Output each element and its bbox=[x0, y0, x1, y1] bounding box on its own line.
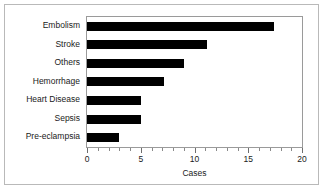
x-axis-tick-labels: 05101520 bbox=[86, 154, 303, 166]
x-tick-minor bbox=[109, 148, 110, 151]
x-tick-major bbox=[141, 148, 142, 153]
x-tick-minor bbox=[130, 148, 131, 151]
x-tick-major bbox=[87, 148, 88, 153]
x-tick-minor bbox=[227, 148, 228, 151]
category-label: Sepsis bbox=[54, 109, 80, 128]
bar-row bbox=[87, 91, 141, 110]
bar-row bbox=[87, 54, 184, 73]
x-tick-minor bbox=[270, 148, 271, 151]
bar-row bbox=[87, 36, 207, 55]
x-tick-label: 0 bbox=[85, 154, 90, 164]
x-tick-major bbox=[302, 148, 303, 153]
bar-row bbox=[87, 128, 119, 147]
x-tick-minor bbox=[238, 148, 239, 151]
x-tick-label: 5 bbox=[138, 154, 143, 164]
x-axis-title: Cases bbox=[86, 168, 303, 178]
x-tick-minor bbox=[205, 148, 206, 151]
bar-row bbox=[87, 110, 141, 129]
bar bbox=[87, 40, 207, 49]
plot-area bbox=[86, 16, 303, 148]
bars-layer bbox=[87, 17, 302, 147]
x-tick-minor bbox=[281, 148, 282, 151]
bar bbox=[87, 133, 119, 142]
x-tick-label: 20 bbox=[297, 154, 306, 164]
x-tick-minor bbox=[119, 148, 120, 151]
category-label: Stroke bbox=[55, 35, 80, 54]
x-tick-minor bbox=[152, 148, 153, 151]
bar bbox=[87, 115, 141, 124]
category-label: Pre-eclampsia bbox=[26, 127, 80, 146]
bar bbox=[87, 96, 141, 105]
x-tick-minor bbox=[291, 148, 292, 151]
x-tick-label: 10 bbox=[190, 154, 199, 164]
category-label: Heart Disease bbox=[26, 90, 80, 109]
x-tick-minor bbox=[259, 148, 260, 151]
bar bbox=[87, 22, 274, 31]
x-tick-minor bbox=[216, 148, 217, 151]
x-tick-minor bbox=[162, 148, 163, 151]
bar bbox=[87, 59, 184, 68]
x-tick-minor bbox=[184, 148, 185, 151]
category-label: Others bbox=[54, 53, 80, 72]
x-tick-major bbox=[248, 148, 249, 153]
category-label: Hemorrhage bbox=[33, 72, 80, 91]
x-tick-major bbox=[195, 148, 196, 153]
x-tick-minor bbox=[173, 148, 174, 151]
figure-container: EmbolismStrokeOthersHemorrhageHeart Dise… bbox=[4, 4, 319, 185]
category-label: Embolism bbox=[43, 16, 80, 35]
y-axis-category-labels: EmbolismStrokeOthersHemorrhageHeart Dise… bbox=[5, 16, 83, 148]
x-tick-label: 15 bbox=[244, 154, 253, 164]
bar bbox=[87, 77, 164, 86]
x-tick-minor bbox=[98, 148, 99, 151]
bar-row bbox=[87, 73, 164, 92]
bar-row bbox=[87, 17, 274, 36]
